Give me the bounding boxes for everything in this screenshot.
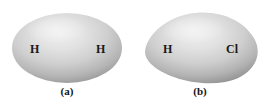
electron-cloud-h2-svg [0,0,134,95]
figure-canvas: H H (a) [0,0,267,111]
electron-cloud-hcl [133,0,267,95]
atom-label-h-right-a: H [96,43,106,55]
panel-caption-a: (a) [0,86,134,97]
atom-label-h-left-b: H [163,43,173,55]
panel-caption-b: (b) [133,86,267,97]
atom-label-h-left-a: H [30,43,40,55]
cloud-highlight-a [26,16,86,44]
molecule-panel-a: H H (a) [0,0,134,111]
atom-label-cl-right-b: Cl [226,43,238,55]
electron-cloud-h2 [0,0,134,95]
electron-cloud-hcl-svg [133,0,267,95]
cloud-highlight-b [161,16,225,44]
molecule-panel-b: H Cl (b) [133,0,267,111]
